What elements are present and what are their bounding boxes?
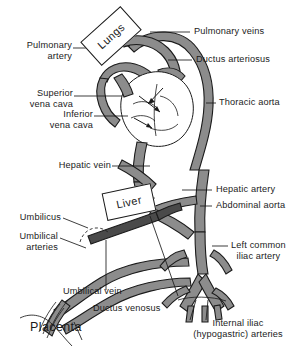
iliac-branch-3 <box>210 250 232 274</box>
label-pulmonary-artery: Pulmonary artery <box>0 40 72 63</box>
label-inferior-vena-cava-line1: Inferior <box>20 109 93 120</box>
label-internal-iliac-line1: Internal iliac <box>168 318 308 329</box>
pulmonary-artery-branch <box>97 78 120 127</box>
label-pulmonary-artery-line1: Pulmonary <box>0 40 72 51</box>
fetal-circulation-figure: .vs { fill:#8c8c8c; stroke:#1b1b1b; stro… <box>0 0 308 354</box>
label-placenta: Placenta <box>30 322 82 333</box>
label-superior-vena-cava: Superior vena cava <box>0 88 73 111</box>
label-ductus-venosus: Ductus venosus <box>93 303 160 314</box>
label-superior-vena-cava-line1: Superior <box>0 88 73 99</box>
label-pulmonary-veins: Pulmonary veins <box>194 26 264 37</box>
superior-vena-cava-path <box>114 74 133 97</box>
leader-umbilicus <box>63 218 88 228</box>
label-hepatic-artery: Hepatic artery <box>216 184 275 195</box>
label-inferior-vena-cava: Inferior vena cava <box>20 109 93 132</box>
label-internal-iliac-arteries: Internal iliac (hypogastric) arteries <box>168 318 308 341</box>
label-left-common-iliac-artery: Left common iliac artery <box>231 240 286 263</box>
label-pulmonary-artery-line2: artery <box>0 51 72 62</box>
label-internal-iliac-line2: (hypogastric) arteries <box>168 329 308 340</box>
label-ductus-arteriosus: Ductus arteriosus <box>196 54 270 65</box>
organ-box-liver-label: Liver <box>115 193 143 210</box>
label-umbilical-arteries: Umbilical arteries <box>0 231 58 254</box>
label-umbilicus: Umbilicus <box>0 212 61 223</box>
label-abdominal-aorta: Abdominal aorta <box>216 200 285 211</box>
label-hepatic-vein: Hepatic vein <box>28 160 111 171</box>
label-inferior-vena-cava-line2: vena cava <box>20 120 93 131</box>
label-umbilical-arteries-line2: arteries <box>0 242 58 253</box>
abdominal-aorta-path <box>195 232 208 274</box>
label-thoracic-aorta: Thoracic aorta <box>219 97 280 108</box>
label-umbilical-arteries-line1: Umbilical <box>0 231 58 242</box>
organ-box-lungs-label: Lungs <box>95 21 127 51</box>
label-left-common-iliac-line2: iliac artery <box>231 251 286 262</box>
label-left-common-iliac-line1: Left common <box>231 240 286 251</box>
leader-umbilical-arteries <box>60 238 86 248</box>
label-umbilical-vein: Umbilical vein <box>63 286 122 297</box>
